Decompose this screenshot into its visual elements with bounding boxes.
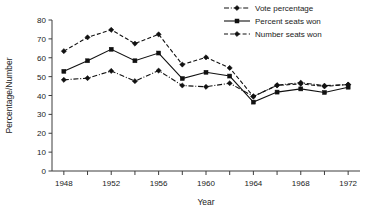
y-tick-label: 40 (37, 92, 46, 101)
data-point-marker (109, 47, 113, 51)
x-tick-label: 1960 (197, 179, 215, 188)
y-tick-label: 70 (37, 35, 46, 44)
data-point-marker (251, 94, 256, 99)
x-tick-label: 1948 (55, 179, 73, 188)
data-point-marker (274, 83, 279, 88)
data-point-marker (156, 68, 161, 73)
legend-item-number-seats-won[interactable]: Number seats won (224, 30, 322, 39)
data-point-marker (275, 90, 279, 94)
data-point-marker (235, 19, 239, 23)
data-point-marker (251, 100, 255, 104)
data-point-marker (204, 70, 208, 74)
data-point-marker (132, 41, 137, 46)
legend-item-vote-percentage[interactable]: Vote percentage (224, 4, 314, 13)
x-tick-label: 1972 (339, 179, 357, 188)
legend-label: Percent seats won (255, 17, 321, 26)
data-point-marker (322, 90, 326, 94)
y-tick-label: 60 (37, 54, 46, 63)
data-point-marker (180, 77, 184, 81)
legend-label: Number seats won (255, 30, 322, 39)
y-tick-label: 20 (37, 129, 46, 138)
y-axis-title: Percentage/Number (4, 57, 14, 133)
data-point-marker (133, 59, 137, 63)
x-tick-label: 1952 (102, 179, 120, 188)
y-tick-label: 0 (42, 167, 47, 176)
data-point-marker (228, 74, 232, 78)
x-tick-label: 1968 (292, 179, 310, 188)
data-point-marker (227, 65, 232, 70)
data-point-marker (234, 5, 239, 10)
y-tick-label: 30 (37, 110, 46, 119)
x-axis-title: Year (197, 197, 214, 207)
y-tick-label: 10 (37, 148, 46, 157)
data-point-marker (61, 49, 66, 54)
data-point-marker (86, 59, 90, 63)
data-point-marker (61, 77, 66, 82)
data-point-marker (203, 55, 208, 60)
data-point-marker (109, 27, 114, 32)
data-point-marker (132, 79, 137, 84)
data-point-marker (157, 51, 161, 55)
y-tick-label: 80 (37, 16, 46, 25)
legend-item-percent-seats-won[interactable]: Percent seats won (224, 17, 321, 26)
data-point-marker (85, 35, 90, 40)
data-point-marker (180, 62, 185, 67)
data-point-marker (203, 84, 208, 89)
legend-label: Vote percentage (255, 4, 314, 13)
data-point-marker (62, 69, 66, 73)
data-point-marker (227, 81, 232, 86)
data-point-marker (299, 87, 303, 91)
line-chart: 0102030405060708019481952195619601964196… (0, 0, 375, 210)
y-tick-label: 50 (37, 73, 46, 82)
data-point-marker (180, 83, 185, 88)
data-point-marker (234, 31, 239, 36)
x-tick-label: 1956 (150, 179, 168, 188)
x-tick-label: 1964 (244, 179, 262, 188)
chart-container: 0102030405060708019481952195619601964196… (0, 0, 375, 210)
data-point-marker (109, 68, 114, 73)
data-point-marker (85, 76, 90, 81)
